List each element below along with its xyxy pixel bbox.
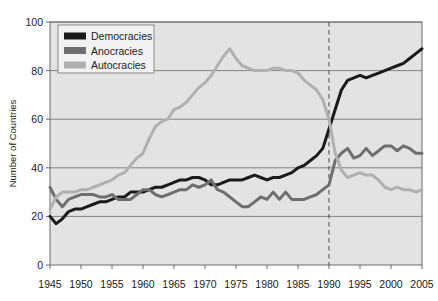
x-tick-label: 2000 xyxy=(379,278,403,290)
x-tick-label: 1980 xyxy=(255,278,279,290)
x-tick-label: 1985 xyxy=(286,278,310,290)
x-tick-label: 1975 xyxy=(224,278,248,290)
legend-swatch-autocracies xyxy=(64,62,86,69)
x-tick-label: 2005 xyxy=(410,278,434,290)
legend-label-democracies: Democracies xyxy=(91,30,152,42)
x-tick-label: 1950 xyxy=(69,278,93,290)
x-tick-label: 1970 xyxy=(193,278,217,290)
x-tick-label: 1945 xyxy=(38,278,62,290)
legend-swatch-democracies xyxy=(64,33,86,40)
x-tick-label: 1955 xyxy=(100,278,124,290)
x-tick-label: 1990 xyxy=(317,278,341,290)
y-tick-label: 20 xyxy=(31,210,43,222)
x-tick-label: 1965 xyxy=(162,278,186,290)
y-axis-title: Number of Countries xyxy=(7,99,18,187)
legend-swatch-anocracies xyxy=(64,47,86,54)
y-tick-label: 100 xyxy=(25,16,43,28)
y-tick-label: 0 xyxy=(37,259,43,271)
y-tick-label: 80 xyxy=(31,65,43,77)
line-chart: 0204060801001945195019551960196519701975… xyxy=(0,0,438,301)
legend-label-autocracies: Autocracies xyxy=(91,59,146,71)
x-tick-label: 1960 xyxy=(131,278,155,290)
y-tick-label: 40 xyxy=(31,162,43,174)
legend-label-anocracies: Anocracies xyxy=(91,45,143,57)
x-tick-label: 1995 xyxy=(348,278,372,290)
chart-figure: 0204060801001945195019551960196519701975… xyxy=(0,0,438,301)
y-tick-label: 60 xyxy=(31,113,43,125)
